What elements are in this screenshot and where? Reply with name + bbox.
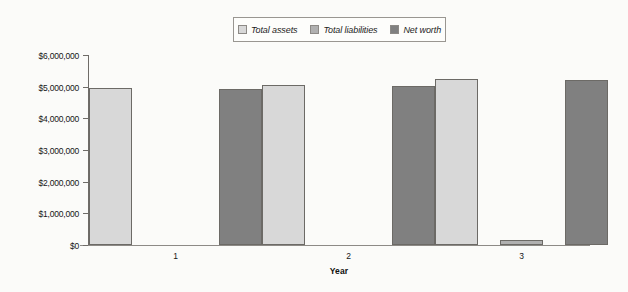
x-axis-title: Year [88, 266, 590, 276]
legend-swatch-total-assets [238, 25, 247, 34]
bar-group: 1 [89, 55, 262, 245]
y-axis-tick-label: $3,000,000 [38, 146, 79, 156]
y-axis-tick-label: $2,000,000 [38, 178, 79, 188]
x-axis-category-label: 2 [262, 251, 435, 261]
y-axis-tick-label: $0 [70, 241, 79, 251]
y-axis-tick: $4,000,000 [83, 118, 88, 119]
y-axis-tick-label: $5,000,000 [38, 83, 79, 93]
chart-legend: Total assets Total liabilities Net worth [233, 17, 446, 42]
plot-area: $6,000,000$5,000,000$4,000,000$3,000,000… [88, 55, 590, 245]
bar [262, 85, 305, 245]
legend-item-total-liabilities: Total liabilities [310, 25, 377, 35]
bar [219, 89, 262, 245]
legend-item-total-assets: Total assets [238, 25, 298, 35]
legend-label-total-liabilities: Total liabilities [323, 25, 377, 35]
y-axis-tick-label: $1,000,000 [38, 209, 79, 219]
legend-swatch-net-worth [390, 25, 399, 34]
y-axis-tick: $0 [83, 245, 88, 246]
bar-group: 2 [262, 55, 435, 245]
legend-label-net-worth: Net worth [403, 25, 441, 35]
y-axis-tick: $2,000,000 [83, 182, 88, 183]
bar-group: 3 [435, 55, 608, 245]
x-axis-category-label: 1 [89, 251, 262, 261]
x-axis-category-label: 3 [435, 251, 608, 261]
y-axis-tick: $5,000,000 [83, 87, 88, 88]
y-axis-tick: $6,000,000 [83, 55, 88, 56]
bar [89, 88, 132, 245]
bar [392, 86, 435, 245]
y-axis-tick-label: $6,000,000 [38, 51, 79, 61]
y-axis-tick: $3,000,000 [83, 150, 88, 151]
x-axis-baseline [80, 245, 590, 246]
bar [500, 240, 543, 245]
legend-label-total-assets: Total assets [251, 25, 298, 35]
legend-swatch-total-liabilities [310, 25, 319, 34]
bar-groups: 123 [89, 55, 590, 245]
bar [565, 80, 608, 245]
y-axis-tick: $1,000,000 [83, 213, 88, 214]
legend-item-net-worth: Net worth [390, 25, 441, 35]
bar [435, 79, 478, 245]
bar-chart: Total assets Total liabilities Net worth… [0, 0, 628, 292]
y-axis-tick-label: $4,000,000 [38, 114, 79, 124]
